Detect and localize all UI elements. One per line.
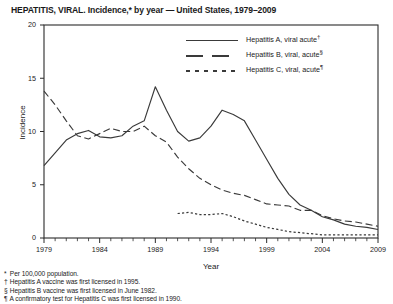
- footnote: * Per 100,000 population.: [4, 270, 304, 278]
- x-tick-label: 2009: [358, 246, 393, 253]
- footnote: ¶ A confirmatory test for Hepatitis C wa…: [4, 295, 304, 303]
- series-line-c: [178, 212, 378, 234]
- y-tick-label: 15: [14, 75, 36, 82]
- y-tick-label: 5: [14, 181, 36, 188]
- footnote: § Hepatitis B vaccine was first licensed…: [4, 287, 304, 295]
- y-tick-label: 20: [14, 21, 36, 28]
- y-tick-label: 10: [14, 128, 36, 135]
- hepatitis-incidence-figure: HEPATITIS, VIRAL. Incidence,* by year — …: [0, 0, 393, 304]
- x-tick-label: 1994: [191, 246, 231, 253]
- x-tick-label: 1979: [24, 246, 64, 253]
- legend-label: Hepatitis A, viral acute†: [246, 33, 320, 47]
- legend-label: Hepatitis B, viral, acute§: [246, 48, 323, 62]
- x-tick-label: 1989: [135, 246, 175, 253]
- y-axis-title: Incidence: [18, 93, 27, 153]
- legend-label: Hepatitis C, viral, acute¶: [246, 63, 323, 77]
- legend-swatch-a-icon: [186, 40, 238, 41]
- legend-hepatitis-a: Hepatitis A, viral acute†: [186, 33, 382, 48]
- x-tick-label: 2004: [302, 246, 342, 253]
- x-tick-label: 1999: [247, 246, 287, 253]
- chart-legend: Hepatitis A, viral acute†Hepatitis B, vi…: [186, 33, 382, 78]
- series-line-a: [44, 87, 378, 230]
- data-series: [44, 87, 378, 235]
- footnotes-block: * Per 100,000 population.† Hepatitis A v…: [4, 270, 304, 304]
- legend-swatch-c-icon: [186, 70, 238, 72]
- y-tick-label: 0: [14, 234, 36, 241]
- legend-swatch-b-icon: [186, 55, 238, 57]
- footnote: † Hepatitis A vaccine was first licensed…: [4, 278, 304, 286]
- x-tick-label: 1984: [80, 246, 120, 253]
- legend-hepatitis-b: Hepatitis B, viral, acute§: [186, 48, 382, 63]
- legend-hepatitis-c: Hepatitis C, viral, acute¶: [186, 63, 382, 78]
- series-line-b: [44, 91, 378, 226]
